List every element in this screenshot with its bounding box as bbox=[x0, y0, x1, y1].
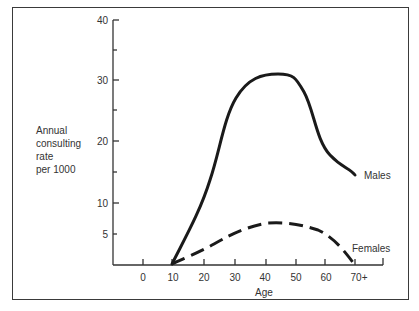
x-tick-label: 50 bbox=[290, 272, 302, 283]
y-ticks bbox=[113, 20, 119, 234]
x-tick-label: 40 bbox=[259, 272, 271, 283]
males-label: Males bbox=[364, 170, 391, 181]
y-tick-label: 20 bbox=[97, 136, 109, 147]
y-tick-label: 30 bbox=[97, 75, 109, 86]
chart-canvas: 40 30 20 10 5 0 10 20 30 40 50 60 70+ Ag… bbox=[0, 0, 419, 311]
females-line bbox=[172, 223, 355, 265]
x-tick-label: 30 bbox=[229, 272, 241, 283]
y-tick-label: 40 bbox=[97, 15, 109, 26]
x-tick-label: 0 bbox=[140, 272, 146, 283]
x-tick-label: 20 bbox=[198, 272, 210, 283]
x-tick-label: 70+ bbox=[351, 272, 368, 283]
x-axis-label: Age bbox=[255, 287, 273, 298]
x-tick-label: 10 bbox=[167, 272, 179, 283]
y-tick-label: 10 bbox=[97, 198, 109, 209]
males-line bbox=[172, 74, 355, 264]
x-tick-label: 60 bbox=[320, 272, 332, 283]
females-label: Females bbox=[352, 243, 390, 254]
y-tick-label: 5 bbox=[102, 229, 108, 240]
